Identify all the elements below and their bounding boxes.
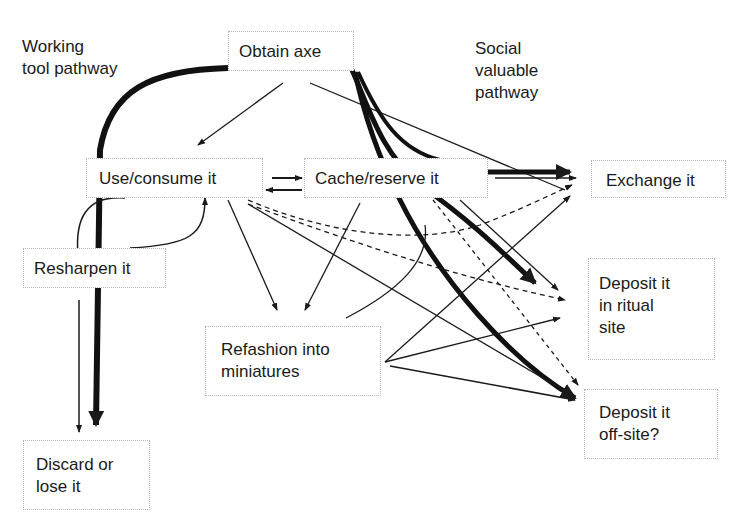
- edge-cache-offsite-dashed: [433, 200, 578, 385]
- node-discard-label: Discard or lose it: [36, 454, 149, 498]
- node-offsite: Deposit it off-site?: [584, 389, 718, 459]
- edge-cache-refashion: [305, 203, 360, 310]
- node-refashion: Refashion into miniatures: [205, 326, 381, 396]
- node-exchange: Exchange it: [591, 160, 726, 198]
- edge-refashion-cache-curve: [346, 225, 426, 318]
- edge-cache-ritual: [460, 200, 558, 290]
- node-cache-reserve-label: Cache/reserve it: [315, 168, 487, 190]
- node-discard: Discard or lose it: [23, 440, 150, 510]
- node-resharpen: Resharpen it: [23, 248, 166, 288]
- node-refashion-label: Refashion into miniatures: [221, 339, 380, 383]
- edge-obtain-use: [198, 83, 283, 145]
- edge-refashion-ritual: [385, 318, 560, 362]
- edge-resharpen-use: [130, 198, 205, 248]
- node-resharpen-label: Resharpen it: [34, 258, 165, 280]
- node-cache-reserve: Cache/reserve it: [304, 158, 488, 198]
- node-offsite-label: Deposit it off-site?: [599, 402, 717, 446]
- social-pathway-label: Social valuable pathway: [475, 38, 538, 104]
- node-ritual-site: Deposit it in ritual site: [588, 258, 715, 360]
- node-obtain-axe-label: Obtain axe: [239, 41, 353, 63]
- node-exchange-label: Exchange it: [606, 170, 725, 192]
- node-ritual-site-label: Deposit it in ritual site: [599, 273, 714, 339]
- edge-refashion-offsite: [390, 366, 575, 400]
- node-obtain-axe: Obtain axe: [228, 31, 354, 71]
- node-use-consume-label: Use/consume it: [99, 168, 262, 190]
- node-use-consume: Use/consume it: [86, 158, 263, 198]
- working-pathway-label: Working tool pathway: [22, 36, 117, 80]
